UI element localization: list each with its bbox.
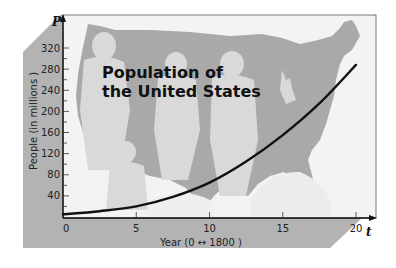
y-tick-label: 200 (41, 106, 60, 117)
x-axis-title: Year (0 ↔ 1800 ) (159, 237, 242, 248)
population-chart: Population of the United States 40801201… (0, 0, 396, 268)
y-tick-label: 320 (41, 43, 60, 54)
y-tick-label: 40 (47, 190, 60, 201)
y-axis-title: People (in millions ) (28, 72, 39, 170)
y-tick-label: 240 (41, 85, 60, 96)
x-tick-label: 5 (133, 223, 139, 234)
chart-title-line-1: Population of (102, 63, 224, 82)
x-tick-label: 0 (63, 223, 69, 234)
x-axis-variable: t (366, 225, 372, 239)
chart-title-line-2: the United States (102, 82, 261, 101)
y-axis-variable: P (51, 15, 62, 29)
x-tick-label: 10 (203, 223, 216, 234)
y-tick-label: 280 (41, 64, 60, 75)
y-tick-label: 80 (47, 169, 60, 180)
y-tick-label: 160 (41, 127, 60, 138)
x-tick-label: 15 (276, 223, 289, 234)
x-tick-label: 20 (350, 223, 363, 234)
y-tick-label: 120 (41, 148, 60, 159)
